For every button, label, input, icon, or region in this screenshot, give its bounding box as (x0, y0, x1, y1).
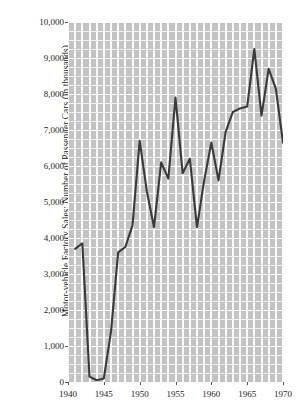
y-tick-mark (65, 346, 68, 347)
y-tick-mark (65, 202, 68, 203)
y-tick-mark (65, 94, 68, 95)
y-tick-mark (65, 130, 68, 131)
x-tick-mark (176, 382, 177, 385)
y-tick-mark (65, 166, 68, 167)
y-tick-mark (65, 310, 68, 311)
x-tick-mark (247, 382, 248, 385)
chart-figure: Motor-vehicle Factory Sales: Number of P… (0, 0, 301, 413)
x-tick-mark (211, 382, 212, 385)
x-tick-label: 1970 (261, 390, 301, 399)
x-tick-mark (283, 382, 284, 385)
x-tick-mark (104, 382, 105, 385)
y-tick-mark (65, 238, 68, 239)
x-axis-tick-labels: 1940194519501955196019651970 (0, 0, 301, 413)
y-tick-mark (65, 22, 68, 23)
x-tick-mark (140, 382, 141, 385)
x-tick-mark (68, 382, 69, 385)
y-tick-mark (65, 274, 68, 275)
y-tick-mark (65, 58, 68, 59)
